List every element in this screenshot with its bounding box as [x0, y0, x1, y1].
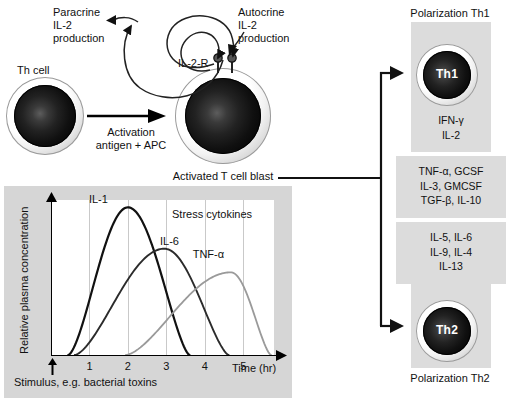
x-tick-5: 5	[233, 360, 253, 372]
activation-label: Activation antigen + APC	[83, 126, 179, 152]
chart-y-axis-label: Relative plasma concentration	[18, 207, 30, 354]
chart-y-axis	[51, 198, 52, 356]
th-cell	[6, 77, 84, 155]
polarization-branch-arrow	[276, 58, 404, 348]
chart-x-axis	[51, 355, 279, 356]
th1-cytokines-panel: IFN-γ IL-2	[411, 106, 491, 152]
activation-arrow	[86, 105, 168, 127]
paracrine-arrowhead	[104, 12, 140, 28]
chart-curves	[51, 200, 274, 356]
th2-cytokines-panel: IL-5, IL-6 IL-9, IL-4 IL-13	[396, 222, 506, 284]
paracrine-label: Paracrine IL-2 production	[53, 6, 104, 45]
curve-IL-1	[68, 207, 189, 355]
autocrine-arrowhead	[222, 30, 248, 58]
th1-cell: Th1	[416, 44, 478, 106]
th2-cell-label: Th2	[416, 323, 478, 337]
series-label-TNF-α: TNF-α	[193, 248, 224, 260]
stimulus-arrow	[47, 358, 58, 375]
chart-title: Stress cytokines	[172, 208, 252, 220]
th2-cell: Th2	[416, 300, 478, 362]
x-tick-3: 3	[156, 360, 176, 372]
th2-polarization-label: Polarization Th2	[396, 372, 504, 385]
th-cell-label: Th cell	[17, 64, 49, 77]
th2-cytokines-text: IL-5, IL-6 IL-9, IL-4 IL-13	[396, 230, 506, 274]
th-cell-nucleus	[14, 85, 76, 147]
x-axis-arrowhead	[276, 350, 287, 361]
th1-polarization-label: Polarization Th1	[396, 7, 504, 20]
cytokine-kinetics-chart: Relative plasma concentration Stress cyt…	[4, 186, 292, 398]
th1-cell-label: Th1	[416, 67, 478, 81]
x-tick-4: 4	[195, 360, 215, 372]
curve-IL-6	[75, 249, 229, 355]
x-tick-1: 1	[79, 360, 99, 372]
shared-cytokines-panel: TNF-α, GCSF IL-3, GMCSF TGF-β, IL-10	[396, 156, 506, 218]
x-tick-2: 2	[118, 360, 138, 372]
curve-TNF-α	[126, 272, 271, 355]
series-label-IL-1: IL-1	[89, 193, 108, 205]
stimulus-annotation: Stimulus, e.g. bacterial toxins	[14, 376, 157, 388]
y-axis-arrowhead	[46, 192, 57, 203]
activated-blast-label: Activated T cell blast	[158, 170, 288, 183]
series-label-IL-6: IL-6	[160, 235, 179, 247]
shared-cytokines-text: TNF-α, GCSF IL-3, GMCSF TGF-β, IL-10	[396, 164, 506, 208]
th1-cytokines-text: IFN-γ IL-2	[411, 113, 491, 142]
